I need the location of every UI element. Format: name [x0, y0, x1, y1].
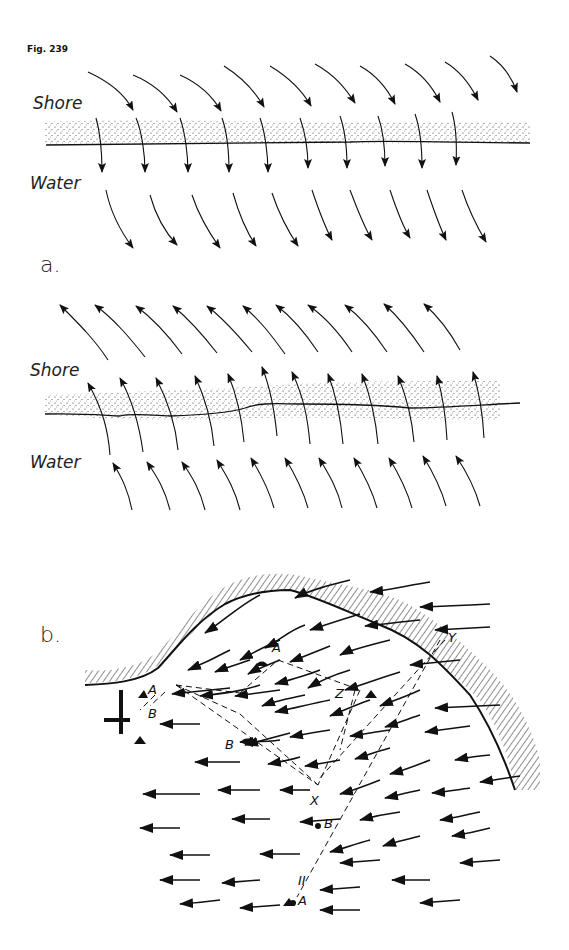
point-a-dot	[290, 900, 296, 906]
label-z: Z	[335, 686, 344, 701]
arrows-top	[88, 56, 517, 248]
theodolite-icon	[255, 662, 268, 667]
theodolite-icon	[240, 739, 253, 744]
label-b-lower: B	[324, 816, 333, 831]
label-x: X	[310, 793, 319, 808]
shore-band-top	[45, 121, 530, 145]
point-b-dot	[315, 823, 321, 829]
triangle-marker-icon	[365, 690, 377, 698]
triangle-marker-icon	[138, 690, 148, 698]
label-y: Y	[448, 630, 456, 645]
label-a-left: A	[148, 682, 157, 697]
wind-arrows	[140, 580, 520, 910]
label-b-mid: B	[225, 737, 234, 752]
label-a-upper: A	[272, 640, 281, 655]
label-a-lower: A	[298, 893, 307, 908]
triangle-marker-icon	[134, 736, 146, 744]
label-ii: II	[298, 873, 306, 888]
label-b-left: B	[148, 706, 157, 721]
pier-symbol	[104, 690, 130, 734]
diagram-canvas	[0, 0, 569, 950]
shore-band-bottom	[45, 380, 520, 420]
